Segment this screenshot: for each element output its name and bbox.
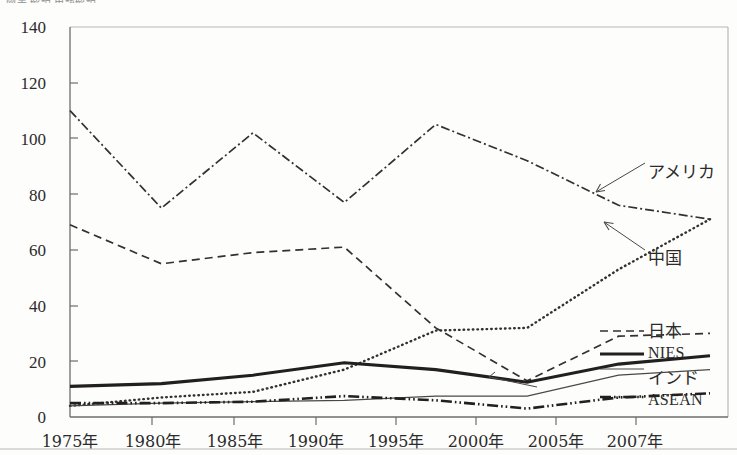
- chart-canvas: [0, 0, 737, 455]
- x-axis-ticks: [152, 417, 636, 425]
- series-line-asean: [70, 393, 710, 408]
- y-axis-ticks: [70, 83, 78, 361]
- annotation-leaders: [489, 163, 645, 397]
- chart-figure: 図表 解説 用語解説 140 120 100 80 60 40 20 0 197…: [0, 0, 737, 455]
- series-line-nies: [70, 356, 710, 387]
- leader-america-arrow: [596, 163, 645, 192]
- series-line-america: [70, 111, 710, 220]
- series-line-india: [70, 370, 710, 406]
- leader-china-arrow: [604, 222, 645, 250]
- series-line-japan: [70, 225, 710, 381]
- series-line-china: [70, 219, 710, 406]
